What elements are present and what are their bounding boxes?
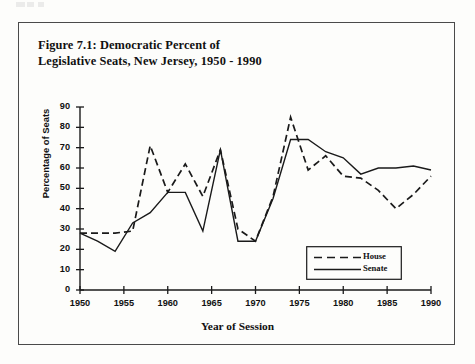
y-tick-label: 50 [46,182,70,192]
y-tick-label: 30 [46,223,70,233]
y-tick-label: 70 [46,142,70,152]
y-tick-label: 80 [46,121,70,131]
x-axis-title: Year of Session [19,320,456,332]
legend-label-senate: Senate [363,263,387,273]
y-tick-label: 10 [46,264,70,274]
figure-page: Figure 7.1: Democratic Percent of Legisl… [0,0,475,364]
y-tick-label: 90 [46,101,70,111]
x-tick-label: 1950 [60,298,100,308]
y-tick-label: 0 [46,284,70,294]
x-tick-label: 1990 [411,298,451,308]
chart-plot-area: Percentage of Seats Year of Session 0102… [19,23,456,346]
x-tick-label: 1965 [192,298,232,308]
y-tick-label: 20 [46,243,70,253]
x-tick-label: 1970 [236,298,276,308]
series-line-senate [80,140,431,252]
scan-artifact [16,2,25,7]
x-tick-label: 1960 [148,298,188,308]
scan-artifact [27,2,34,7]
legend-svg [306,246,402,280]
x-tick-label: 1980 [323,298,363,308]
x-tick-label: 1975 [279,298,319,308]
figure-frame: Figure 7.1: Democratic Percent of Legisl… [18,22,455,345]
legend-label-house: House [363,251,386,261]
x-tick-label: 1985 [367,298,407,308]
x-tick-label: 1955 [104,298,144,308]
scan-artifact [38,2,44,7]
y-tick-label: 40 [46,203,70,213]
y-tick-label: 60 [46,162,70,172]
data-series-group [80,117,431,251]
